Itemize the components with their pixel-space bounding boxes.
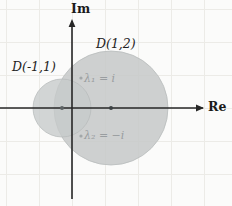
center-marker-small xyxy=(60,106,64,110)
complex-plane-plot xyxy=(0,0,232,206)
imaginary-axis-label: Im xyxy=(71,1,90,16)
real-axis-label: Re xyxy=(208,99,227,114)
figure-canvas: Im Re D(1,2) D(-1,1) λ₁ = i λ₂ = −i xyxy=(0,0,232,206)
disc-large-label: D(1,2) xyxy=(96,36,136,51)
center-marker-large xyxy=(109,106,113,110)
disc-small-label: D(-1,1) xyxy=(12,59,56,74)
eigenvalue-1-label: λ₁ = i xyxy=(84,72,115,85)
eigenvalue-2-label: λ₂ = −i xyxy=(84,129,124,142)
eigenvalue-marker-1 xyxy=(79,76,82,79)
eigenvalue-marker-2 xyxy=(79,134,82,137)
